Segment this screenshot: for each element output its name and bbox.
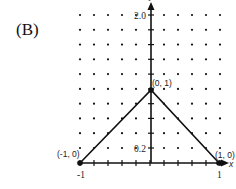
grid-dot	[135, 117, 137, 119]
grid-dot	[121, 103, 123, 105]
grid-dot	[205, 29, 207, 31]
grid-dot	[205, 132, 207, 134]
tent-function-graph: (B) (-1, 0) (0, 1) (1, 0) 2.0 0.2 -1 1	[0, 0, 236, 189]
grid-dot	[107, 88, 109, 90]
grid-dot	[205, 14, 207, 16]
grid-dot	[191, 44, 193, 46]
grid-dot	[191, 117, 193, 119]
grid-dot	[205, 73, 207, 75]
tent-function-line	[80, 90, 219, 163]
grid-dot	[177, 88, 179, 90]
grid-dot	[93, 14, 95, 16]
grid-dot	[107, 29, 109, 31]
grid-dot	[135, 29, 137, 31]
grid-dot	[163, 147, 165, 149]
grid-dot	[121, 14, 123, 16]
grid-dot	[177, 147, 179, 149]
grid-dot	[219, 29, 221, 31]
grid-dot	[219, 14, 221, 16]
grid-dot	[163, 73, 165, 75]
grid-dot	[191, 103, 193, 105]
grid-dot	[205, 117, 207, 119]
grid-dot	[93, 132, 95, 134]
grid-dot	[135, 73, 137, 75]
grid-dot	[177, 132, 179, 134]
x-axis-arrow-icon	[221, 160, 229, 167]
grid-dot	[79, 29, 81, 31]
grid-dot	[79, 132, 81, 134]
grid-dot	[219, 147, 221, 149]
grid-dot	[121, 147, 123, 149]
grid-dot	[107, 44, 109, 46]
grid-dot	[219, 58, 221, 60]
grid-dot	[79, 58, 81, 60]
grid-dot	[205, 44, 207, 46]
grid-dot	[177, 73, 179, 75]
grid-dot	[163, 58, 165, 60]
grid-dot	[135, 44, 137, 46]
grid-dot	[121, 44, 123, 46]
dot-grid	[79, 14, 221, 149]
point-0-1	[148, 87, 154, 93]
plot-area: (-1, 0) (0, 1) (1, 0) 2.0 0.2 -1 1 x y	[0, 0, 236, 189]
grid-dot	[79, 73, 81, 75]
grid-dot	[107, 103, 109, 105]
grid-dot	[107, 58, 109, 60]
grid-dot	[121, 58, 123, 60]
grid-dot	[93, 73, 95, 75]
grid-dot	[205, 88, 207, 90]
grid-dot	[135, 88, 137, 90]
x-tick-label-1: 1	[217, 170, 222, 180]
grid-dot	[163, 132, 165, 134]
grid-dot	[79, 14, 81, 16]
grid-dot	[219, 88, 221, 90]
grid-dot	[205, 103, 207, 105]
y-tick-label-0-2: 0.2	[134, 144, 146, 154]
grid-dot	[107, 117, 109, 119]
grid-dot	[191, 14, 193, 16]
grid-dot	[191, 58, 193, 60]
grid-dot	[163, 88, 165, 90]
grid-dot	[135, 58, 137, 60]
grid-dot	[177, 29, 179, 31]
grid-dot	[121, 73, 123, 75]
grid-dot	[93, 29, 95, 31]
grid-dot	[177, 44, 179, 46]
grid-dot	[107, 73, 109, 75]
grid-dot	[219, 103, 221, 105]
point-neg1-0	[77, 160, 83, 166]
y-axis-label: y	[148, 0, 154, 1]
grid-dot	[93, 44, 95, 46]
grid-dot	[121, 29, 123, 31]
grid-dot	[79, 88, 81, 90]
grid-dot	[177, 58, 179, 60]
grid-dot	[163, 44, 165, 46]
grid-dot	[191, 73, 193, 75]
grid-dot	[93, 103, 95, 105]
grid-dot	[107, 147, 109, 149]
grid-dot	[177, 103, 179, 105]
point-label-neg1-0: (-1, 0)	[57, 149, 80, 159]
grid-dot	[93, 117, 95, 119]
grid-dot	[163, 117, 165, 119]
grid-dot	[163, 29, 165, 31]
y-tick-label-2: 2.0	[134, 11, 146, 21]
grid-dot	[121, 132, 123, 134]
grid-dot	[191, 29, 193, 31]
x-axis	[80, 160, 229, 167]
grid-dot	[135, 132, 137, 134]
grid-dot	[219, 132, 221, 134]
grid-dot	[79, 44, 81, 46]
grid-dot	[191, 147, 193, 149]
grid-dot	[191, 88, 193, 90]
grid-dot	[107, 14, 109, 16]
x-tick-label-neg1: -1	[77, 170, 85, 180]
grid-dot	[219, 73, 221, 75]
x-axis-label: x	[228, 159, 234, 169]
grid-dot	[93, 58, 95, 60]
grid-dot	[219, 117, 221, 119]
y-axis-arrow-icon	[148, 2, 155, 10]
grid-dot	[79, 117, 81, 119]
grid-dot	[205, 58, 207, 60]
point-1-0	[216, 160, 222, 166]
